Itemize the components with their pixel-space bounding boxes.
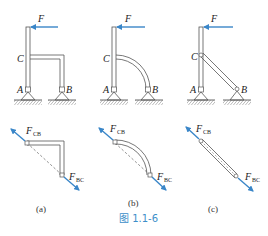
label-b: B <box>241 84 247 95</box>
panel-b-free-body: F CB F BC (b) <box>99 123 172 208</box>
label-fbc-sub: BC <box>76 177 84 183</box>
panel-c-free-body: F CB F BC (c) <box>186 123 260 214</box>
label-f: F <box>210 13 218 24</box>
label-fbc: F <box>156 171 164 182</box>
panel-label-b: (b) <box>128 198 139 208</box>
label-fbc: F <box>68 171 76 182</box>
label-fcb-sub: CB <box>203 129 211 135</box>
panel-label-a: (a) <box>36 204 46 214</box>
label-c: C <box>103 53 110 64</box>
label-f: F <box>124 13 132 24</box>
label-fcb: F <box>109 123 117 134</box>
label-c: C <box>17 53 24 64</box>
label-fbc-sub: BC <box>164 177 172 183</box>
panel-a-structure: F C A B <box>14 13 76 105</box>
label-c: C <box>191 51 198 62</box>
label-fcb: F <box>195 123 203 134</box>
label-fbc-sub: BC <box>252 177 260 183</box>
label-a: A <box>16 84 24 95</box>
panel-a-free-body: F CB F BC (a) <box>11 125 84 214</box>
label-a: A <box>189 84 197 95</box>
label-fcb: F <box>25 125 33 136</box>
figure-1-1-6: F C A B F C A B <box>0 0 268 236</box>
label-f: F <box>37 13 45 24</box>
label-b: B <box>66 84 72 95</box>
label-fcb-sub: CB <box>117 129 125 135</box>
label-fbc: F <box>244 171 252 182</box>
panel-b-structure: F C A B <box>100 13 163 105</box>
force-fcb-arrow <box>11 129 25 141</box>
label-fcb-sub: CB <box>33 131 41 137</box>
panel-label-c: (c) <box>208 204 218 214</box>
label-a: A <box>102 84 110 95</box>
figure-caption: 图 1.1-6 <box>119 213 158 224</box>
panel-c-structure: F C A B <box>187 13 251 105</box>
label-b: B <box>152 84 158 95</box>
